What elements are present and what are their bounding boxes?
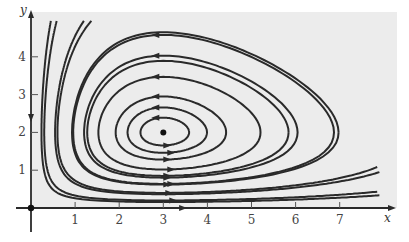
plot-background [31, 12, 397, 208]
x-tick-label: 7 [336, 213, 344, 227]
x-tick-label: 5 [248, 213, 256, 227]
center-equilibrium-point [160, 129, 166, 135]
y-tick-label: 2 [18, 125, 26, 139]
x-tick-label: 2 [115, 213, 123, 227]
x-axis-label: x [384, 211, 391, 225]
y-axis-label: y [19, 3, 27, 17]
x-tick-label: 3 [159, 213, 167, 227]
origin-equilibrium-point [28, 205, 34, 211]
phase-portrait: 12345671234 y x [0, 0, 409, 242]
x-tick-label: 6 [292, 213, 300, 227]
y-tick-label: 3 [18, 88, 26, 102]
x-tick-label: 1 [71, 213, 79, 227]
y-tick-label: 4 [18, 50, 26, 64]
y-tick-label: 1 [18, 163, 26, 177]
x-tick-label: 4 [204, 213, 212, 227]
